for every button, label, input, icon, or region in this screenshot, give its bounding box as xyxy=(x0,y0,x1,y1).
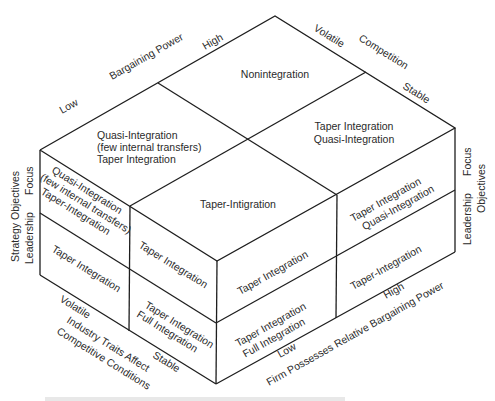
axis-firm-high: High xyxy=(381,280,406,301)
label-objectives: Objectives xyxy=(475,164,487,213)
clipped-caption-fragment xyxy=(45,397,345,401)
label-focus-left: Focus xyxy=(23,166,35,195)
label-low: Low xyxy=(57,96,80,116)
cell-top-right: Taper Integration Quasi-Integration xyxy=(314,120,395,145)
cell-left-top-right: Taper Integration xyxy=(137,239,210,291)
axis-left-focus: Focus xyxy=(23,166,35,195)
label-stable: Stable xyxy=(401,80,433,106)
label-high-bottom: High xyxy=(381,280,406,301)
label-volatile: Volatile xyxy=(312,22,347,50)
cell-right-bottom-left: Taper Integration Full Integration xyxy=(233,300,314,360)
label-competition: Competition xyxy=(357,32,411,72)
cell-right-bottom-right: Taper-Integration xyxy=(348,242,423,291)
axis-bargaining-low: Low xyxy=(57,96,80,116)
axis-bargaining-high: High xyxy=(200,31,225,52)
label-leadership-left: Leadership xyxy=(23,212,35,264)
cell-left-bottom-right: Taper Integration Full Integration xyxy=(135,297,216,360)
cell-text-line: Quasi-Integration xyxy=(314,133,395,145)
axis-industry-stable: Stable xyxy=(151,349,183,375)
label-focus-right: Focus xyxy=(461,147,473,176)
cell-text-line: Taper Integration xyxy=(235,248,310,297)
label-low-bottom: Low xyxy=(275,340,298,360)
axis-right-title: Objectives xyxy=(475,164,487,213)
integration-strategy-cube-diagram: Low Bargaining Power High Volatile Compe… xyxy=(0,0,495,401)
axis-right-leadership: Leadership xyxy=(461,193,473,245)
axis-competition-stable: Stable xyxy=(401,80,433,106)
label-high: High xyxy=(200,31,225,52)
label-strategy-objectives: Strategy Objectives xyxy=(9,171,21,262)
axis-firm-low: Low xyxy=(275,340,298,360)
cell-top-left: Quasi-Integration (few internal transfer… xyxy=(97,129,201,165)
axis-competition-title: Competition xyxy=(357,32,411,72)
cell-text-line: (few internal transfers) xyxy=(97,141,201,153)
cell-text-line: Taper Integration xyxy=(137,239,210,291)
cell-text-line: Taper-Integration xyxy=(348,242,423,291)
cell-top-front: Taper-Intigration xyxy=(200,198,276,210)
cell-right-top-left: Taper Integration xyxy=(235,248,310,297)
cell-top-back: Nonintegration xyxy=(241,68,309,80)
axis-competition-volatile: Volatile xyxy=(312,22,347,50)
cell-text-line: Quasi-Integration xyxy=(97,129,178,141)
label-leadership-right: Leadership xyxy=(461,193,473,245)
cell-text-line: Taper Integration xyxy=(50,243,123,295)
label-stable-bottom: Stable xyxy=(151,349,183,375)
cell-text-line: Taper Integration xyxy=(97,153,176,165)
right-bottom-edge xyxy=(216,252,455,384)
axis-left-leadership: Leadership xyxy=(23,212,35,264)
axis-right-focus: Focus xyxy=(461,147,473,176)
axis-left-title: Strategy Objectives xyxy=(9,171,21,262)
cell-left-bottom-left: Taper Integration xyxy=(50,243,123,295)
cell-text-line: Taper Integration xyxy=(315,120,394,132)
